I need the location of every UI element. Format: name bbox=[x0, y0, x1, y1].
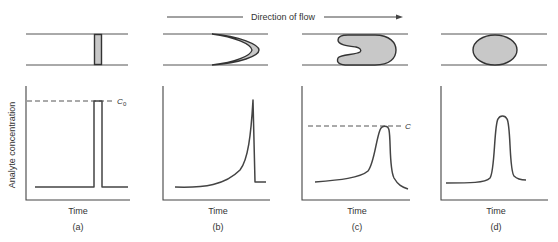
sample-plug-a bbox=[95, 35, 102, 65]
x-axis-label-a: Time bbox=[68, 206, 88, 216]
sample-plug-b bbox=[212, 34, 259, 65]
panel-c: C Time (c) bbox=[302, 34, 411, 232]
flow-direction-indicator: Direction of flow bbox=[167, 12, 403, 22]
x-axis-label-d: Time bbox=[486, 206, 506, 216]
reference-label-c0-subscript: 0 bbox=[123, 101, 127, 107]
panel-caption-b: (b) bbox=[213, 222, 224, 232]
tube-a bbox=[26, 34, 128, 65]
flow-injection-dispersion-figure: Direction of flow Analyte concentration … bbox=[0, 0, 558, 242]
arrow-right-icon bbox=[396, 15, 403, 20]
sample-plug-d bbox=[473, 35, 517, 65]
plot-b: Time (b) bbox=[163, 86, 270, 232]
sample-plug-c bbox=[337, 35, 396, 65]
concentration-profile-b bbox=[175, 100, 266, 187]
axes-c bbox=[302, 86, 410, 200]
x-axis-label-c: Time bbox=[347, 206, 367, 216]
panel-a: C 0 Time (a) bbox=[26, 34, 130, 232]
x-axis-label-b: Time bbox=[208, 206, 228, 216]
panel-caption-d: (d) bbox=[491, 222, 502, 232]
concentration-profile-c bbox=[315, 126, 408, 189]
y-axis-label: Analyte concentration bbox=[7, 102, 17, 189]
plot-d: Time (d) bbox=[441, 86, 548, 232]
axes-a bbox=[26, 86, 130, 200]
concentration-profile-a bbox=[35, 101, 128, 187]
reference-label-c: C bbox=[405, 122, 411, 131]
panel-d: Time (d) bbox=[441, 34, 548, 232]
concentration-profile-d bbox=[446, 116, 526, 183]
plot-a: C 0 Time (a) bbox=[26, 86, 130, 232]
panel-caption-c: (c) bbox=[352, 222, 363, 232]
tube-b bbox=[163, 34, 268, 65]
tube-d bbox=[441, 34, 547, 65]
tube-c bbox=[302, 34, 408, 65]
panel-b: Time (b) bbox=[163, 34, 270, 232]
panel-caption-a: (a) bbox=[73, 222, 84, 232]
plot-c: C Time (c) bbox=[302, 86, 411, 232]
flow-direction-label: Direction of flow bbox=[251, 12, 316, 22]
